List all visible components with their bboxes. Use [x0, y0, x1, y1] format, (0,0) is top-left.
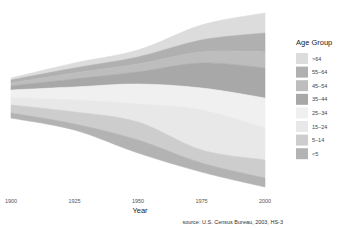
- legend-swatch: [296, 135, 308, 146]
- x-tick-label: 1975: [195, 198, 207, 204]
- legend-swatch: [296, 148, 308, 159]
- x-tick-label: 2000: [259, 198, 271, 204]
- legend-items: >6455–6445–5435–4425–3415–245–14<5: [296, 53, 327, 159]
- legend-swatch: [296, 94, 308, 105]
- streamgraph-chart: 19001925195019752000 Year source: U.S. C…: [0, 0, 341, 228]
- x-tick-label: 1925: [68, 198, 80, 204]
- legend-swatch: [296, 80, 308, 91]
- source-caption: source: U.S. Census Bureau, 2003, HS-3: [182, 219, 283, 225]
- legend: Age Group >6455–6445–5435–4425–3415–245–…: [296, 38, 332, 159]
- stream-bands: [11, 13, 265, 187]
- x-tick-label: 1950: [132, 198, 144, 204]
- x-axis-title: Year: [132, 206, 148, 215]
- legend-swatch: [296, 107, 308, 118]
- x-axis-ticks: 19001925195019752000: [5, 198, 271, 204]
- legend-label: <5: [312, 151, 318, 157]
- legend-label: 45–54: [312, 83, 327, 89]
- legend-label: 5–14: [312, 137, 324, 143]
- legend-swatch: [296, 67, 308, 78]
- x-tick-label: 1900: [5, 198, 17, 204]
- legend-label: 35–44: [312, 96, 327, 102]
- legend-swatch: [296, 53, 308, 64]
- legend-title: Age Group: [296, 38, 332, 47]
- legend-label: 15–24: [312, 124, 327, 130]
- legend-swatch: [296, 121, 308, 132]
- legend-label: >64: [312, 56, 321, 62]
- legend-label: 25–34: [312, 110, 327, 116]
- legend-label: 55–64: [312, 69, 327, 75]
